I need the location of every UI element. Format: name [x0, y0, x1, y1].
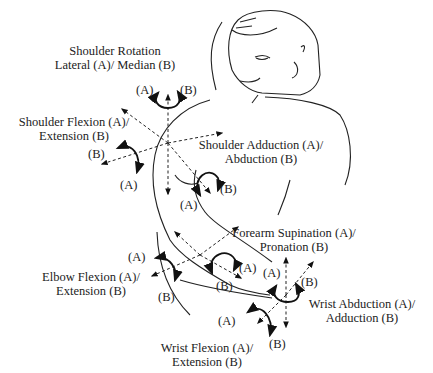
label-line: Shoulder Adduction (A)/ — [192, 138, 330, 152]
wrist-flexion-label: Wrist Flexion (A)/ Extension (B) — [148, 341, 266, 369]
forearm-supination-label: Forearm Supination (A)/ Pronation (B) — [226, 226, 362, 254]
elbow-flexion-label: Elbow Flexion (A)/ Extension (B) — [36, 270, 146, 298]
label-line: Wrist Abduction (A)/ — [302, 297, 422, 311]
label-line: Extension (B) — [10, 129, 138, 143]
label-line: Wrist Flexion (A)/ — [148, 341, 266, 355]
elbow-flexion-b: (B) — [158, 290, 175, 304]
label-line: Pronation (B) — [226, 240, 362, 254]
wrist-abduction-label: Wrist Abduction (A)/ Adduction (B) — [302, 297, 422, 325]
label-line: Adduction (B) — [302, 311, 422, 325]
shoulder-adduction-arrow — [197, 173, 219, 195]
label-line: Extension (B) — [148, 355, 266, 369]
head-outline — [211, 11, 320, 103]
shoulder-flexion-a: (A) — [120, 178, 137, 192]
wrist-abduction-b: (B) — [301, 275, 318, 289]
forearm-supination-a: (A) — [239, 261, 256, 275]
arm-movement-diagram: Shoulder Rotation Lateral (A)/ Median (B… — [0, 0, 433, 373]
label-line: Abduction (B) — [192, 152, 330, 166]
elbow-flexion-a: (A) — [128, 250, 145, 264]
wrist-flexion-b: (B) — [269, 337, 286, 351]
shoulder-rotation-label: Shoulder Rotation Lateral (A)/ Median (B… — [40, 44, 190, 72]
wrist-abduction-a: (A) — [263, 266, 280, 280]
shoulder-flexion-arrow — [118, 147, 138, 172]
label-line: Extension (B) — [36, 284, 146, 298]
wrist-flexion-arrow — [248, 309, 271, 335]
wrist-flexion-a: (A) — [218, 314, 235, 328]
shoulder-flexion-label: Shoulder Flexion (A)/ Extension (B) — [10, 115, 138, 143]
shoulder-rotation-a: (A) — [136, 83, 153, 97]
shoulder-adduction-b: (B) — [220, 182, 237, 196]
shoulder-adduction-a: (A) — [180, 198, 197, 212]
label-line: Elbow Flexion (A)/ — [36, 270, 146, 284]
shoulder-rotation-b: (B) — [180, 83, 197, 97]
label-line: Shoulder Flexion (A)/ — [10, 115, 138, 129]
label-line: Forearm Supination (A)/ — [226, 226, 362, 240]
label-line: Lateral (A)/ Median (B) — [40, 58, 190, 72]
forearm-supination-b: (B) — [216, 279, 233, 293]
shoulder-rotation-arrow — [156, 92, 180, 108]
label-line: Shoulder Rotation — [40, 44, 190, 58]
shoulder-flexion-b: (B) — [88, 147, 105, 161]
shoulder-adduction-label: Shoulder Adduction (A)/ Abduction (B) — [192, 138, 330, 166]
